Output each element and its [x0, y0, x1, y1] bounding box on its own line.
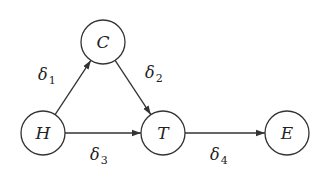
- edge-label-delta-4: δ4: [210, 145, 228, 167]
- edge-h-c: [55, 60, 91, 114]
- node-label: T: [157, 123, 170, 143]
- edge-label-delta-1: δ1: [38, 65, 56, 87]
- node-label: H: [35, 123, 52, 143]
- node-label: E: [280, 123, 294, 143]
- edge-label-delta-3: δ3: [90, 145, 108, 167]
- node-e: E: [265, 111, 309, 155]
- diagram-canvas: CHTE δ1δ2δ3δ4: [0, 0, 319, 173]
- nodes-group: CHTE: [21, 20, 309, 155]
- edge-labels-group: δ1δ2δ3δ4: [38, 63, 228, 167]
- edge-label-delta-2: δ2: [145, 63, 163, 85]
- node-c: C: [81, 20, 125, 64]
- node-t: T: [141, 111, 185, 155]
- node-h: H: [21, 111, 65, 155]
- graph-svg: CHTE δ1δ2δ3δ4: [0, 0, 319, 173]
- node-label: C: [96, 32, 109, 52]
